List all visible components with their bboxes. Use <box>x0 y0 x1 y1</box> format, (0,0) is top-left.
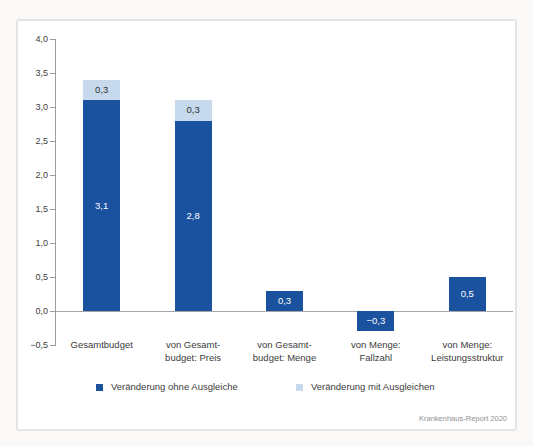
bar-value-label: 0,3 <box>83 85 120 95</box>
y-axis-tick <box>50 73 56 74</box>
bar-value-label: 0,3 <box>175 105 212 115</box>
legend-swatch-dark-icon <box>96 384 103 391</box>
y-axis-tick <box>50 277 56 278</box>
y-axis-tick <box>50 39 56 40</box>
category-label: von Gesamt-budget: Preis <box>147 338 238 364</box>
y-axis-tick-label: 1,5 <box>14 203 48 215</box>
y-axis-tick-label: 3,0 <box>14 101 48 113</box>
legend-label-mit-ausgleichen: Veränderung mit Ausgleichen <box>311 381 435 392</box>
bar-value-label: 0,5 <box>449 289 486 299</box>
category-label: von Menge:Fallzahl <box>330 338 421 364</box>
plot-area: 4,03,53,02,52,01,51,00,50,0−0,53,10,3Ges… <box>55 39 513 345</box>
bar-segment-ohne-ausgleiche: 0,5 <box>449 277 486 311</box>
x-axis-baseline <box>56 311 513 312</box>
source-note: Krankenhaus-Report 2020 <box>419 414 507 423</box>
legend: Veränderung ohne Ausgleiche Veränderung … <box>18 381 515 395</box>
y-axis-tick-label: 0,5 <box>14 271 48 283</box>
bar-value-label: 3,1 <box>83 201 120 211</box>
bar-segment-mit-ausgleichen: 0,3 <box>175 100 212 120</box>
y-axis-tick-label: 4,0 <box>14 33 48 45</box>
y-axis-tick <box>50 107 56 108</box>
bar-value-label: 0,3 <box>266 296 303 306</box>
y-axis-tick-label: 3,5 <box>14 67 48 79</box>
y-axis-tick-label: −0,5 <box>14 339 48 351</box>
y-axis-tick <box>50 243 56 244</box>
bar-segment-ohne-ausgleiche: 0,3 <box>266 291 303 311</box>
y-axis-tick-label: 2,0 <box>14 169 48 181</box>
y-axis-tick <box>50 141 56 142</box>
bar-segment-ohne-ausgleiche: 3,1 <box>83 100 120 311</box>
legend-label-ohne-ausgleiche: Veränderung ohne Ausgleiche <box>111 381 238 392</box>
legend-swatch-light-icon <box>296 384 303 391</box>
chart-frame: 4,03,53,02,52,01,51,00,50,0−0,53,10,3Ges… <box>16 19 517 431</box>
bar-segment-ohne-ausgleiche: 2,8 <box>175 121 212 311</box>
category-label: von Gesamt-budget: Menge <box>239 338 330 364</box>
category-label: von Menge:Leistungsstruktur <box>422 338 513 364</box>
y-axis-tick-label: 2,5 <box>14 135 48 147</box>
y-axis-tick-label: 1,0 <box>14 237 48 249</box>
category-label: Gesamtbudget <box>56 338 147 351</box>
y-axis-tick-label: 0,0 <box>14 305 48 317</box>
legend-item-ohne-ausgleiche: Veränderung ohne Ausgleiche <box>96 381 238 392</box>
bar-value-label: 2,8 <box>175 211 212 221</box>
legend-item-mit-ausgleichen: Veränderung mit Ausgleichen <box>296 381 435 392</box>
bar-segment-ohne-ausgleiche: −0,3 <box>357 311 394 331</box>
y-axis-tick <box>50 209 56 210</box>
y-axis-tick <box>50 175 56 176</box>
bar-value-label: −0,3 <box>357 316 394 326</box>
bar-segment-mit-ausgleichen: 0,3 <box>83 80 120 100</box>
